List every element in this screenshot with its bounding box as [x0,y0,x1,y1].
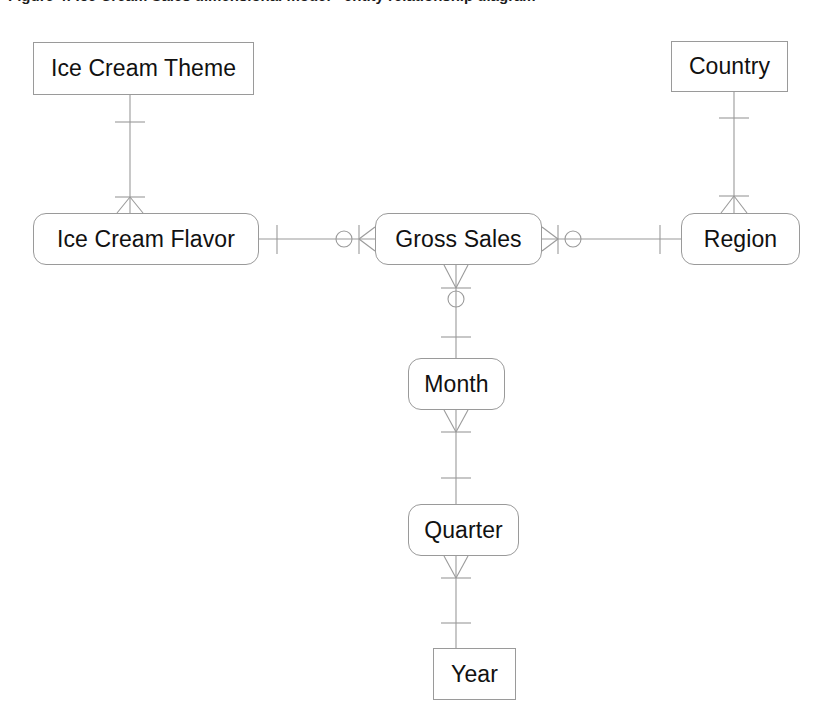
connector-quarter-year [441,556,471,648]
entity-region[interactable]: Region [681,213,800,265]
entity-label: Year [451,663,498,686]
entity-quarter[interactable]: Quarter [408,504,519,556]
entity-gross-sales[interactable]: Gross Sales [375,213,542,265]
entity-label: Ice Cream Theme [51,57,236,80]
connector-country-region [719,92,749,213]
connector-sales-region [542,225,681,254]
entity-label: Country [689,55,770,78]
entity-ice-cream-theme[interactable]: Ice Cream Theme [33,42,254,95]
connector-sales-month [441,265,471,358]
entity-label: Region [704,228,778,251]
entity-year[interactable]: Year [433,648,516,700]
connector-month-quarter [441,410,471,504]
connector-theme-flavor [115,95,145,213]
connector-layer [0,0,814,727]
entity-ice-cream-flavor[interactable]: Ice Cream Flavor [33,213,259,265]
entity-label: Month [424,373,488,396]
er-diagram-canvas: Figure 4: Ice Cream Sales dimensional mo… [0,0,814,727]
entity-label: Ice Cream Flavor [57,228,235,251]
entity-label: Quarter [424,519,503,542]
entity-month[interactable]: Month [408,358,505,410]
entity-country[interactable]: Country [671,41,788,92]
connector-flavor-sales [259,225,375,254]
entity-label: Gross Sales [395,228,521,251]
